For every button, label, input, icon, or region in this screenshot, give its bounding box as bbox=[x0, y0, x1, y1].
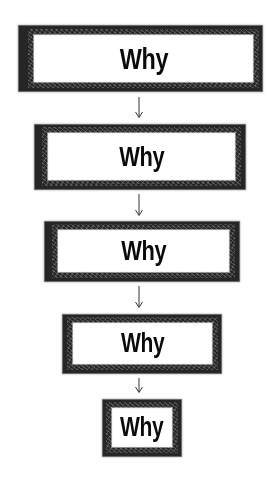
down-arrow-icon bbox=[133, 378, 145, 393]
down-arrow-icon bbox=[133, 194, 145, 216]
why-box-4: Why bbox=[63, 315, 221, 373]
why-label: Why bbox=[120, 414, 163, 441]
why-box-5: Why bbox=[103, 400, 181, 456]
why-label: Why bbox=[119, 143, 164, 171]
down-arrow-icon bbox=[133, 286, 145, 308]
why-label: Why bbox=[119, 44, 167, 74]
down-arrow-icon bbox=[133, 97, 145, 118]
why-box-3: Why bbox=[45, 222, 239, 281]
why-label: Why bbox=[121, 237, 166, 265]
five-whys-diagram: Why Why Why Why Why bbox=[0, 0, 277, 478]
why-box-1: Why bbox=[19, 26, 262, 91]
why-box-2: Why bbox=[35, 125, 245, 189]
why-label: Why bbox=[121, 330, 164, 357]
